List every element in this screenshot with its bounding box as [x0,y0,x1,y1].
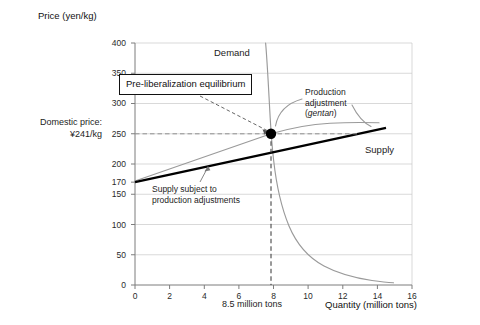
chart-container: 400 350 300 250 200 170 150 100 50 0 0 2… [0,0,480,325]
equilibrium-quantity-label: 8.5 million tons [222,299,282,310]
x-tick-label-0: 0 [125,291,145,301]
y-tick-label-400: 400 [100,38,126,48]
supply-adjustment-line1: Supply subject to [152,184,217,194]
domestic-price-label: Domestic price: ¥241/kg [8,116,102,140]
y-tick-label-170: 170 [100,177,126,187]
x-tick-marks [135,285,412,289]
y-tick-label-300: 300 [100,98,126,108]
x-tick-label-2: 2 [160,291,180,301]
supply-curve-label: Supply [365,144,394,155]
production-adjustment-line1: Production [305,87,346,97]
equilibrium-point-marker [266,129,276,139]
y-tick-label-250: 250 [100,129,126,139]
production-adjustment-line2: adjustment [305,98,347,108]
domestic-price-line2: ¥241/kg [70,129,102,139]
callout-box-text: Pre-liberalization equilibrium [126,78,245,89]
y-tick-label-200: 200 [100,159,126,169]
y-tick-label-50: 50 [100,250,126,260]
supply-adjustment-label: Supply subject to production adjustments [152,184,240,205]
x-tick-label-4: 4 [194,291,214,301]
x-axis-title: Quantity (million tons) [325,299,417,310]
y-tick-label-0: 0 [100,280,126,290]
y-axis-title: Price (yen/kg) [38,10,97,21]
x-tick-label-10: 10 [298,291,318,301]
y-tick-label-150: 150 [100,189,126,199]
domestic-price-line1: Domestic price: [40,117,102,127]
demand-curve-label: Demand [214,47,250,58]
supply-adjustment-line2: production adjustments [152,195,240,205]
production-adjustment-paren-close: ) [334,108,337,118]
production-adjustment-gentan-term: gentan [308,108,334,118]
y-tick-label-100: 100 [100,220,126,230]
callout-box-pre-liberalization-equilibrium: Pre-liberalization equilibrium [119,74,252,95]
production-adjustment-label: Production adjustment (gentan) [305,87,347,119]
